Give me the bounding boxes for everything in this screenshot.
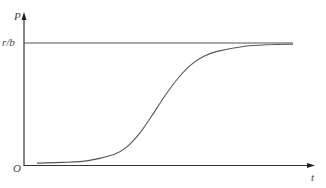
x-axis-arrow-icon [307, 163, 315, 168]
asymptote-label: r/b [2, 37, 15, 48]
logistic-curve [37, 44, 293, 163]
y-axis-arrow-icon [22, 12, 27, 20]
y-axis-label: P [14, 11, 21, 22]
origin-label: O [13, 163, 21, 174]
logistic-chart [0, 0, 326, 188]
x-axis-label: t [311, 172, 314, 183]
